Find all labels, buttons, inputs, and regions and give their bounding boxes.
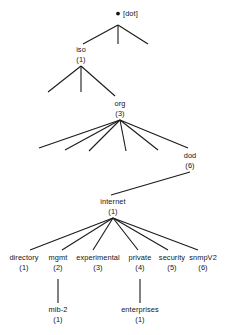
node-label-dod: dod (184, 151, 197, 160)
node-label-mib-2: mib-2 (49, 305, 68, 314)
node-index-iso: (1) (76, 55, 85, 64)
node-index-internet: (1) (108, 207, 117, 216)
tree-node-dod[interactable]: dod(6) (184, 151, 197, 170)
tree-node-experimental[interactable]: experimental(3) (76, 253, 120, 272)
tree-node-mib-2[interactable]: mib-2(1) (49, 305, 68, 324)
node-label-iso: iso (76, 45, 86, 54)
node-index-mib-2: (1) (53, 315, 62, 324)
node-index-directory: (1) (19, 263, 28, 272)
node-index-snmpV2: (6) (198, 263, 207, 272)
node-label-experimental: experimental (76, 253, 120, 262)
node-index-enterprises: (1) (135, 315, 144, 324)
tree-node-security[interactable]: security(5) (159, 253, 185, 272)
tree-canvas: iso(1)org(3)dod(6)internet(1)directory(1… (0, 0, 228, 335)
tree-node-snmpV2[interactable]: snmpV2(6) (189, 253, 217, 272)
tree-edge-root-to-unlabeled-right-1 (118, 25, 148, 44)
node-label-mgmt: mgmt (49, 253, 68, 262)
tree-edge-dod-to-internet (111, 172, 190, 195)
node-label-security: security (159, 253, 185, 262)
node-index-security: (5) (167, 263, 176, 272)
tree-edge-org-to-unlabeled-c (89, 120, 120, 151)
node-index-dod: (6) (185, 161, 194, 170)
tree-edge-org-to-unlabeled-a (39, 120, 120, 148)
tree-edge-internet-to-directory (30, 218, 113, 250)
tree-edge-iso-to-org (81, 66, 115, 96)
tree-edge-root-to-unlabeled-left-1 (83, 25, 118, 44)
tree-edge-internet-to-experimental (93, 218, 113, 250)
nodes-group: iso(1)org(3)dod(6)internet(1)directory(1… (9, 45, 216, 324)
tree-edge-org-to-unlabeled-e (120, 120, 158, 150)
node-label-org: org (115, 99, 126, 108)
node-label-directory: directory (9, 253, 38, 262)
tree-node-iso[interactable]: iso(1) (76, 45, 86, 64)
node-label-snmpV2: snmpV2 (189, 253, 217, 262)
tree-node-mgmt[interactable]: mgmt(2) (49, 253, 68, 272)
node-index-mgmt: (2) (53, 263, 62, 272)
tree-node-directory[interactable]: directory(1) (9, 253, 38, 272)
tree-edge-internet-to-mgmt (62, 218, 113, 250)
node-label-enterprises: enterprises (121, 305, 159, 314)
tree-node-private[interactable]: private(4) (129, 253, 152, 272)
root-bullet-icon (116, 12, 120, 16)
tree-edge-org-to-unlabeled-b (65, 120, 120, 150)
node-label-private: private (129, 253, 152, 262)
node-index-org: (3) (115, 109, 124, 118)
tree-node-internet[interactable]: internet(1) (100, 197, 125, 216)
tree-edge-internet-to-security (113, 218, 168, 250)
root-node: [dot] (116, 9, 138, 18)
node-index-private: (4) (135, 263, 144, 272)
tree-node-org[interactable]: org(3) (115, 99, 126, 118)
node-label-internet: internet (100, 197, 125, 206)
root-node-label: [dot] (123, 9, 138, 18)
node-index-experimental: (3) (93, 263, 102, 272)
tree-edge-org-to-dod (120, 120, 188, 148)
tree-node-enterprises[interactable]: enterprises(1) (121, 305, 159, 324)
tree-edge-iso-to-unlabeled-left-2 (48, 66, 81, 92)
oid-tree-diagram: iso(1)org(3)dod(6)internet(1)directory(1… (0, 0, 228, 335)
